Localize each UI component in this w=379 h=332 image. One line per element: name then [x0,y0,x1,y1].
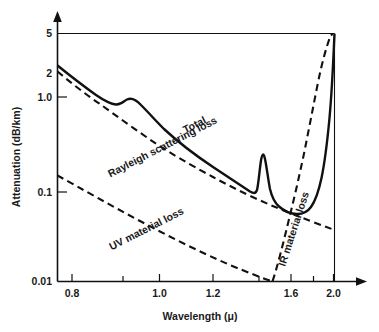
x-tick-label-1.6: 1.6 [284,287,299,299]
y-tick-label-0.1: 0.1 [37,186,52,198]
y-tick-label-0.01: 0.01 [32,275,53,287]
x-tick-label-1.0: 1.0 [152,287,167,299]
attenuation-vs-wavelength-chart: 5 2 1.0 0.1 0.01 0.8 1.0 1.2 1.6 2.0 Wav… [0,0,379,332]
y-tick-label-1.0: 1.0 [37,91,52,103]
x-tick-label-1.2: 1.2 [206,287,221,299]
y-tick-label-5: 5 [46,27,52,39]
y-axis-title: Attenuation (dB/km) [10,107,22,207]
x-tick-label-0.8: 0.8 [65,287,80,299]
x-axis-title: Wavelength (μ) [163,310,238,322]
x-tick-label-2.0: 2.0 [326,287,341,299]
y-tick-label-2: 2 [46,67,52,79]
